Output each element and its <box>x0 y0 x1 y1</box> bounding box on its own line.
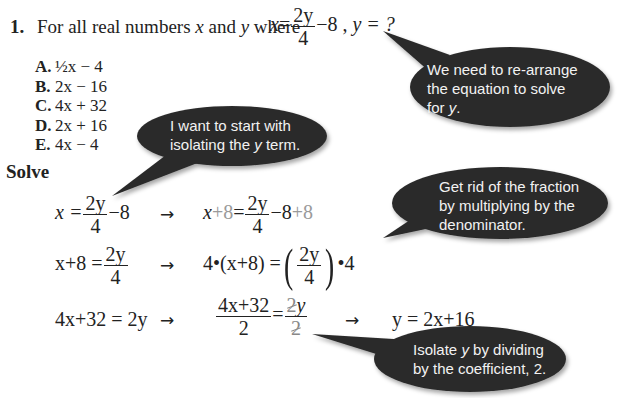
choice-d[interactable]: D.2x + 16 <box>35 116 107 136</box>
arrow-icon: → <box>160 204 174 224</box>
step-row2-left: x+8 =2y4 <box>55 243 129 288</box>
question-number: 1. <box>10 16 24 38</box>
step-row3-left: 4x+32 = 2y <box>55 308 148 331</box>
question-prompt: For all real numbers x and y where <box>37 16 300 38</box>
bubble-isolate-term: I want to start with isolating the y ter… <box>170 116 300 154</box>
choice-e[interactable]: E.4x − 4 <box>35 135 107 155</box>
solve-heading: Solve <box>6 161 49 183</box>
step-row3-result: y = 2x+16 <box>392 308 475 331</box>
fraction: 2y4 <box>245 192 269 237</box>
choice-c[interactable]: C.4x + 32 <box>35 96 107 116</box>
fraction: 4x+322 <box>216 294 271 339</box>
step-row3-mid: 4x+322=2y2 <box>215 294 308 339</box>
question-equation: x=2y4−8 , y = ? <box>270 4 395 49</box>
choice-a[interactable]: A.½x − 4 <box>35 57 107 77</box>
choice-b[interactable]: B.2x − 16 <box>35 77 107 97</box>
fraction: 2y2 <box>285 294 308 339</box>
step-row2-right: 4•(x+8) =(2y4)•4 <box>203 243 355 288</box>
arrow-icon: → <box>160 255 174 275</box>
fraction: 2y4 <box>297 243 321 288</box>
arrow-icon: → <box>345 310 359 330</box>
answer-choices: A.½x − 4 B.2x − 16 C.4x + 32 D.2x + 16 E… <box>35 57 107 155</box>
fraction: 2y4 <box>83 192 107 237</box>
fraction: 2y4 <box>104 243 128 288</box>
bubble-rearrange: We need to re-arrange the equation to so… <box>427 60 578 117</box>
arrow-icon: → <box>160 310 174 330</box>
step-row1-right: x+8=2y4−8+8 <box>203 192 313 237</box>
step-row1-left: x =2y4−8 <box>55 192 130 237</box>
bubble-fraction: Get rid of the fraction by multiplying b… <box>439 177 579 234</box>
bubble-divide: Isolate y by dividing by the coefficient… <box>413 340 546 378</box>
fraction: 2y4 <box>291 4 315 49</box>
